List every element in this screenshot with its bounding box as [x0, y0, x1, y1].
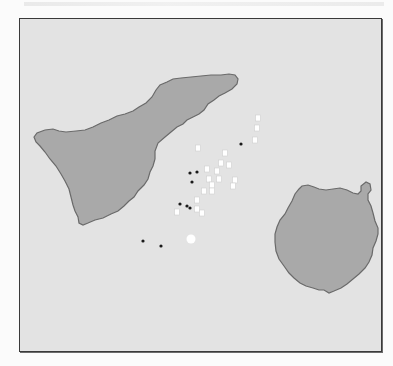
- white-marker: [210, 182, 215, 188]
- map-canvas: [20, 19, 381, 351]
- black-dot-marker: [188, 206, 191, 209]
- black-dot-marker: [188, 171, 191, 174]
- black-dot-marker: [185, 204, 188, 207]
- white-marker: [175, 209, 180, 215]
- white-marker: [205, 166, 210, 172]
- black-dot-marker: [178, 202, 181, 205]
- white-marker: [233, 177, 238, 183]
- white-marker: [210, 188, 215, 194]
- black-dot-marker: [141, 239, 144, 242]
- white-marker: [215, 168, 220, 174]
- white-marker: [223, 150, 228, 156]
- map-page: [0, 0, 393, 366]
- black-dot-marker: [239, 142, 242, 145]
- cropped-caption-strip: [24, 2, 384, 6]
- white-marker: [231, 183, 236, 189]
- black-dot-marker: [195, 170, 198, 173]
- map-frame: [19, 18, 382, 352]
- white-marker: [200, 210, 205, 216]
- black-dot-marker: [159, 244, 162, 247]
- island-gran-canaria: [275, 182, 378, 293]
- white-marker: [207, 176, 212, 182]
- white-marker: [227, 162, 232, 168]
- white-marker: [217, 176, 222, 182]
- white-marker: [196, 145, 201, 151]
- white-marker: [253, 137, 258, 143]
- white-marker: [195, 197, 200, 203]
- white-circle-marker: [187, 235, 196, 244]
- white-marker: [219, 160, 224, 166]
- white-marker: [195, 206, 200, 212]
- white-marker: [202, 188, 207, 194]
- island-tenerife: [34, 74, 238, 225]
- white-marker: [255, 125, 260, 131]
- black-dot-marker: [190, 180, 193, 183]
- white-marker: [256, 115, 261, 121]
